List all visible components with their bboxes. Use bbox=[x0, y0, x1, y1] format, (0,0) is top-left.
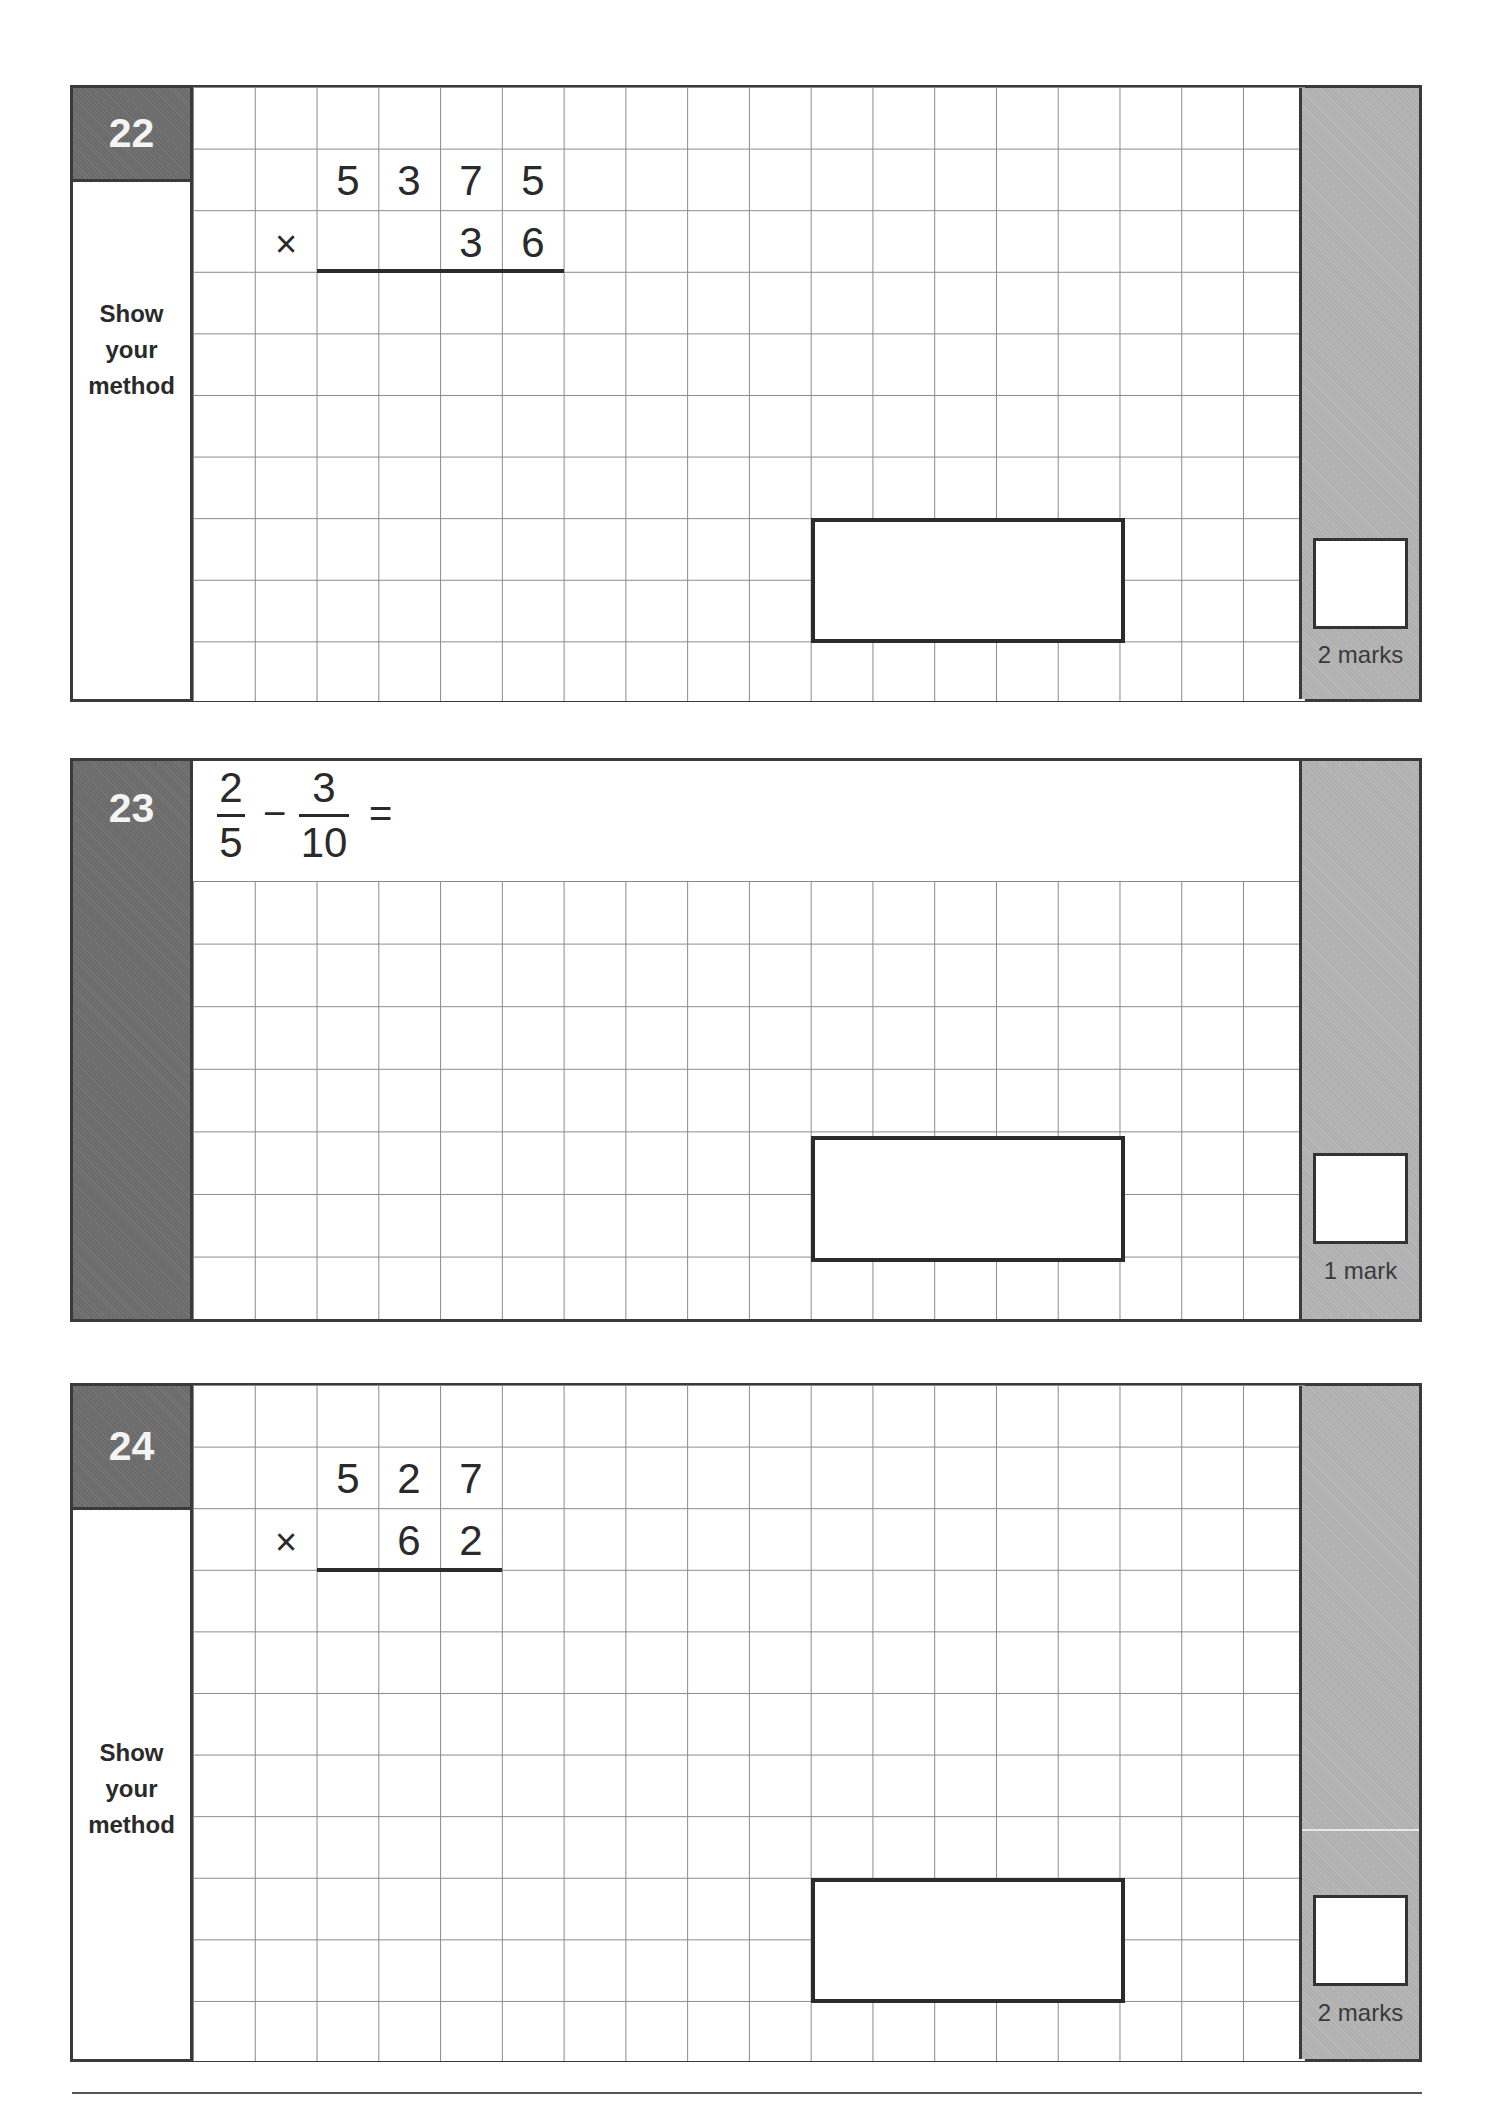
label-line: Show bbox=[73, 296, 190, 332]
marks-label: 2 marks bbox=[1302, 1999, 1419, 2027]
answer-box[interactable] bbox=[811, 1136, 1125, 1262]
page-footer-rule bbox=[72, 2092, 1422, 2094]
marks-box bbox=[1313, 1895, 1408, 1986]
marks-label: 2 marks bbox=[1302, 641, 1419, 669]
question-number: 22 bbox=[109, 110, 155, 157]
question-23-prompt: 2 5 − 3 10 = bbox=[193, 761, 1305, 884]
question-22-left-column: 22 Show your method bbox=[73, 88, 193, 699]
fraction-bar bbox=[299, 814, 349, 817]
marks-box bbox=[1313, 538, 1408, 629]
scan-artifact bbox=[1302, 1829, 1419, 1831]
multiplication-underline bbox=[317, 269, 564, 273]
multiplication-underline bbox=[317, 1568, 502, 1572]
marks-label: 1 mark bbox=[1302, 1257, 1419, 1285]
label-line: method bbox=[73, 1807, 190, 1843]
fraction-bar bbox=[217, 814, 245, 817]
multiplicand-digit: 5 bbox=[317, 157, 379, 205]
show-your-method-label: Show your method bbox=[73, 1735, 190, 1843]
multiply-sign: × bbox=[255, 223, 317, 266]
minus-sign: − bbox=[263, 791, 286, 836]
multiplicand-digit: 2 bbox=[378, 1455, 440, 1503]
multiplier-digit: 6 bbox=[378, 1517, 440, 1565]
marks-box bbox=[1313, 1153, 1408, 1244]
multiplicand-digit: 5 bbox=[317, 1455, 379, 1503]
question-23-left-column: 23 bbox=[73, 761, 193, 1319]
label-line: your bbox=[73, 332, 190, 368]
label-line: Show bbox=[73, 1735, 190, 1771]
answer-box[interactable] bbox=[811, 518, 1125, 643]
working-grid[interactable]: 5 2 7 × 6 2 bbox=[193, 1385, 1305, 2061]
question-22-panel: 22 Show your method 5 3 7 5 × 3 6 2 mark… bbox=[70, 85, 1422, 702]
multiplicand-digit: 7 bbox=[440, 157, 502, 205]
marks-column: 1 mark bbox=[1299, 761, 1419, 1319]
equals-sign: = bbox=[369, 791, 392, 836]
marks-column: 2 marks bbox=[1299, 1386, 1419, 2059]
label-line: your bbox=[73, 1771, 190, 1807]
multiply-sign: × bbox=[255, 1521, 317, 1564]
label-line: method bbox=[73, 368, 190, 404]
question-number: 24 bbox=[109, 1423, 155, 1470]
multiplier-digit: 6 bbox=[502, 219, 564, 267]
denominator: 10 bbox=[301, 820, 348, 866]
question-number-badge: 22 bbox=[73, 88, 190, 182]
question-number: 23 bbox=[109, 785, 155, 832]
fraction-three-tenths: 3 10 bbox=[299, 765, 349, 866]
question-24-panel: 24 Show your method 5 2 7 × 6 2 2 marks bbox=[70, 1383, 1422, 2062]
question-number-badge: 23 bbox=[73, 761, 190, 1319]
question-number-badge: 24 bbox=[73, 1386, 190, 1510]
answer-box[interactable] bbox=[811, 1878, 1125, 2003]
multiplicand-digit: 5 bbox=[502, 157, 564, 205]
multiplier-digit: 2 bbox=[440, 1517, 502, 1565]
numerator: 2 bbox=[219, 765, 242, 811]
numerator: 3 bbox=[312, 765, 335, 811]
question-23-panel: 23 2 5 − 3 10 = 1 mark bbox=[70, 758, 1422, 1322]
show-your-method-label: Show your method bbox=[73, 296, 190, 404]
question-24-left-column: 24 Show your method bbox=[73, 1386, 193, 2059]
working-grid[interactable] bbox=[193, 881, 1305, 1319]
denominator: 5 bbox=[219, 820, 242, 866]
fraction-two-fifths: 2 5 bbox=[217, 765, 245, 866]
multiplicand-digit: 3 bbox=[378, 157, 440, 205]
working-grid[interactable]: 5 3 7 5 × 3 6 bbox=[193, 87, 1305, 701]
multiplicand-digit: 7 bbox=[440, 1455, 502, 1503]
marks-column: 2 marks bbox=[1299, 88, 1419, 699]
multiplier-digit: 3 bbox=[440, 219, 502, 267]
